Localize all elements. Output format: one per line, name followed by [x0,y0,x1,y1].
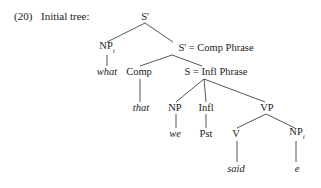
edge-root-np [107,23,145,42]
tree-node-label: what [97,66,117,77]
tree-node-label: V [232,128,240,139]
tree-node-np-i-top: NPi [99,41,114,54]
tree-node-trace-e: e [295,164,300,175]
edge-sbar-s [172,55,202,66]
tree-node-np-i-trace: NPi [289,127,304,140]
tree-node-label: Comp [126,66,152,77]
tree-node-s-infl: S = Infl Phrase [185,67,248,78]
tree-node-label: we [169,128,181,139]
tree-node-what: what [97,67,117,78]
tree-node-label: that [133,102,149,113]
tree-node-infl: Infl [198,103,213,114]
tree-node-subscript: i [113,47,115,55]
tree-node-label: NP [99,40,112,51]
tree-node-that: that [133,103,149,114]
tree-node-s-bar-root: S' [141,12,149,23]
edge-s-vp [204,79,265,102]
tree-node-label: NP [168,102,181,113]
tree-node-v: V [232,129,240,140]
tree-node-label: NP [289,126,302,137]
edge-s-np [176,79,204,102]
tree-node-label: S = Infl Phrase [185,66,248,77]
tree-node-s-bar-comp: S' = Comp Phrase [178,43,253,54]
tree-node-said: said [227,164,245,175]
tree-node-label: S' = Comp Phrase [178,42,253,53]
tree-node-comp: Comp [126,67,152,78]
tree-node-label: e [295,163,300,174]
tree-node-we: we [169,129,181,140]
tree-node-np-subject: NP [168,103,181,114]
tree-node-subscript: i [303,133,305,141]
tree-node-label: S' [141,11,149,22]
edge-vp-v [237,114,266,128]
tree-node-label: Pst [200,128,213,139]
tree-node-label: Infl [198,102,213,113]
syntax-tree-branches [0,0,321,188]
edge-sbar-comp [140,55,172,66]
edge-s-infl [204,79,206,102]
tree-node-vp: VP [260,103,273,114]
tree-node-label: said [227,163,245,174]
tree-node-pst: Pst [200,129,213,140]
figure-container: (20) Initial tree: S'NPiS' = Comp Phrase… [0,0,321,188]
edge-root-sbar [145,23,173,42]
tree-node-label: VP [260,102,273,113]
